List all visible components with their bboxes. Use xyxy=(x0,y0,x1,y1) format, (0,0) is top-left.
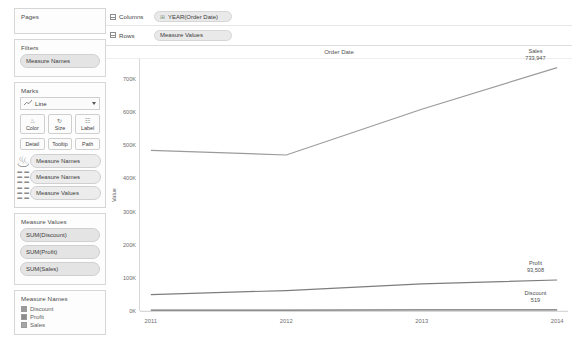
columns-shelf-label: Columns xyxy=(119,13,143,20)
y-axis-tick-label: 0K xyxy=(129,308,136,314)
y-axis-ticks: 0K100K200K300K400K500K600K700K xyxy=(112,59,138,311)
plus-box-icon[interactable]: ⊞ xyxy=(160,14,165,20)
series-end-label-sales: Sales733,947 xyxy=(525,48,545,62)
rows-pill-label: Measure Values xyxy=(160,32,203,38)
y-axis-tick-label: 200K xyxy=(123,242,136,248)
legend-label-discount: Discount xyxy=(30,306,53,312)
filter-pill-measure-names[interactable]: Measure Names xyxy=(20,54,100,68)
left-sidebar: Pages Filters Measure Names Marks Line ♨… xyxy=(14,8,106,330)
columns-pill-label: YEAR(Order Date) xyxy=(168,14,218,20)
plot-wrapper: Value 0K100K200K300K400K500K600K700K Sal… xyxy=(106,59,572,331)
path-button[interactable]: Path xyxy=(75,138,100,150)
shelf-area: Columns ⊞ YEAR(Order Date) Rows Measure … xyxy=(106,8,572,46)
measure-value-pill-discount[interactable]: SUM(Discount) xyxy=(20,228,100,242)
mark-type-select[interactable]: Line xyxy=(20,97,100,110)
x-axis-tick-label: 2013 xyxy=(415,318,428,324)
size-button[interactable]: ↻ Size xyxy=(48,114,73,134)
marks-buttons-row1: ♨ Color ↻ Size ☷ Label xyxy=(20,114,100,134)
rows-shelf-label: Rows xyxy=(119,32,134,39)
legend-item-discount[interactable]: Discount xyxy=(19,305,101,313)
chart-view: Order Date Value 0K100K200K300K400K500K6… xyxy=(106,46,572,331)
filters-card[interactable]: Filters Measure Names xyxy=(14,39,106,77)
x-axis: 2011201220132014 xyxy=(140,311,568,331)
legend-swatch-discount xyxy=(21,306,27,312)
grid-icon xyxy=(110,32,116,38)
series-line-sales[interactable] xyxy=(151,68,557,155)
pages-card[interactable]: Pages xyxy=(14,8,106,34)
y-axis-tick-label: 600K xyxy=(123,109,136,115)
measure-values-card: Measure Values SUM(Discount) SUM(Profit)… xyxy=(14,213,106,285)
measure-values-title: Measure Values xyxy=(19,217,101,228)
size-icon: ↻ xyxy=(57,118,62,124)
label-button-label: Label xyxy=(81,125,94,131)
series-end-label-name: Discount xyxy=(525,290,547,297)
color-button[interactable]: ♨ Color xyxy=(20,114,45,134)
series-end-label-value: 93,508 xyxy=(527,267,544,274)
x-axis-tick-label: 2012 xyxy=(280,318,293,324)
line-chart-icon xyxy=(24,100,32,107)
y-axis-tick-label: 400K xyxy=(123,175,136,181)
label-icon: ☷ xyxy=(19,173,27,181)
series-line-profit[interactable] xyxy=(151,280,557,295)
marks-buttons-row2: Detail Tooltip Path xyxy=(20,138,100,150)
legend-label-profit: Profit xyxy=(30,314,44,320)
columns-pill-year-order-date[interactable]: ⊞ YEAR(Order Date) xyxy=(154,11,232,22)
legend-swatch-sales xyxy=(21,322,27,328)
legend-item-profit[interactable]: Profit xyxy=(19,313,101,321)
line-chart-svg xyxy=(140,59,568,311)
path-icon: ☷ xyxy=(19,189,27,197)
marks-card-pill-color[interactable]: ♨ Measure Names xyxy=(19,154,101,168)
marks-card-pill-path[interactable]: ☷ Measure Values xyxy=(19,186,101,200)
measure-names-legend-title: Measure Names xyxy=(19,294,101,305)
marks-card-title: Marks xyxy=(19,86,101,97)
grid-icon xyxy=(110,14,116,20)
series-end-label-value: 519 xyxy=(525,297,547,304)
y-axis-tick-label: 100K xyxy=(123,275,136,281)
legend-swatch-profit xyxy=(21,314,27,320)
color-button-label: Color xyxy=(26,125,39,131)
series-end-label-discount: Discount519 xyxy=(525,290,547,304)
legend-item-sales[interactable]: Sales xyxy=(19,321,101,329)
series-end-label-name: Profit xyxy=(527,260,544,267)
path-button-label: Path xyxy=(82,141,93,147)
detail-button-label: Detail xyxy=(25,141,39,147)
plot-canvas[interactable]: Sales733,947Profit93,508Discount519 xyxy=(140,59,568,311)
marks-card-pill-label[interactable]: ☷ Measure Names xyxy=(19,170,101,184)
label-icon: ☷ xyxy=(85,118,90,124)
measure-value-pill-profit[interactable]: SUM(Profit) xyxy=(20,245,100,259)
detail-button[interactable]: Detail xyxy=(20,138,45,150)
pages-card-title: Pages xyxy=(19,12,101,23)
size-button-label: Size xyxy=(55,125,66,131)
tooltip-button[interactable]: Tooltip xyxy=(48,138,73,150)
y-axis-tick-label: 700K xyxy=(123,76,136,82)
series-end-label-name: Sales xyxy=(525,48,545,55)
columns-shelf[interactable]: Columns ⊞ YEAR(Order Date) xyxy=(106,8,572,26)
column-header-order-date: Order Date xyxy=(106,46,572,59)
legend-label-sales: Sales xyxy=(30,322,45,328)
measure-names-legend: Measure Names Discount Profit Sales xyxy=(14,290,106,335)
tableau-worksheet: Pages Filters Measure Names Marks Line ♨… xyxy=(0,0,576,337)
color-palette-icon: ♨ xyxy=(30,118,35,124)
marks-pill-label-2[interactable]: Measure Values xyxy=(30,186,101,200)
series-end-label-profit: Profit93,508 xyxy=(527,260,544,274)
filters-card-title: Filters xyxy=(19,43,101,54)
rows-pill-measure-values[interactable]: Measure Values xyxy=(154,30,232,41)
mark-type-label: Line xyxy=(32,100,92,107)
measure-value-pill-sales[interactable]: SUM(Sales) xyxy=(20,262,100,276)
marks-pill-label-1[interactable]: Measure Names xyxy=(30,170,101,184)
columns-shelf-label-wrap: Columns xyxy=(110,13,154,20)
tooltip-button-label: Tooltip xyxy=(52,141,68,147)
rows-shelf-label-wrap: Rows xyxy=(110,32,154,39)
rows-shelf[interactable]: Rows Measure Values xyxy=(106,26,572,44)
chevron-down-icon[interactable] xyxy=(92,102,96,105)
x-axis-tick-label: 2014 xyxy=(551,318,564,324)
marks-pill-label-0[interactable]: Measure Names xyxy=(30,154,101,168)
color-palette-icon: ♨ xyxy=(19,157,27,165)
x-axis-tick-label: 2011 xyxy=(145,318,157,324)
series-end-label-value: 733,947 xyxy=(525,55,545,62)
marks-card: Marks Line ♨ Color ↻ Size ☷ xyxy=(14,82,106,208)
label-button[interactable]: ☷ Label xyxy=(75,114,100,134)
y-axis-tick-label: 500K xyxy=(123,142,136,148)
y-axis-tick-label: 300K xyxy=(123,209,136,215)
